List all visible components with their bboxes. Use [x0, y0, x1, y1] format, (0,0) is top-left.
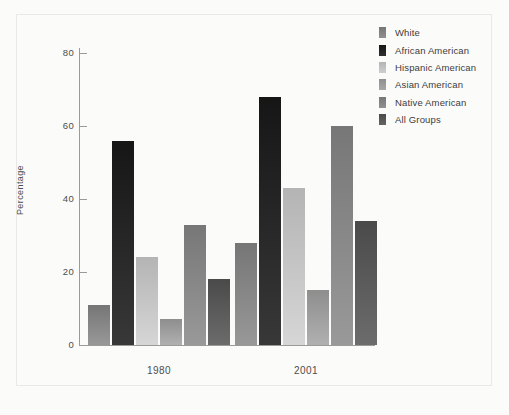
bar-white-1980 — [88, 305, 110, 345]
chart-legend: WhiteAfrican AmericanHispanic AmericanAs… — [379, 24, 489, 128]
bar-asian-american-2001 — [307, 290, 329, 345]
legend-swatch-icon — [379, 27, 386, 38]
bar-white-2001 — [235, 243, 257, 345]
legend-item-hispanic-american[interactable]: Hispanic American — [379, 59, 489, 76]
legend-label: Asian American — [395, 79, 463, 90]
legend-swatch-icon — [379, 62, 386, 73]
legend-swatch-icon — [379, 97, 386, 108]
bar-asian-american-1980 — [160, 319, 182, 345]
legend-item-all-groups[interactable]: All Groups — [379, 111, 489, 128]
legend-label: Native American — [395, 97, 466, 108]
legend-label: White — [395, 27, 420, 38]
bar-all-groups-2001 — [355, 221, 377, 345]
bar-hispanic-american-2001 — [283, 188, 305, 345]
legend-item-african-american[interactable]: African American — [379, 41, 489, 58]
bar-native-american-2001 — [331, 126, 353, 345]
bar-native-american-1980 — [184, 225, 206, 345]
legend-label: All Groups — [395, 114, 441, 125]
bar-hispanic-american-1980 — [136, 257, 158, 345]
legend-label: Hispanic American — [395, 62, 476, 73]
legend-swatch-icon — [379, 79, 386, 90]
legend-item-asian-american[interactable]: Asian American — [379, 76, 489, 93]
legend-swatch-icon — [379, 45, 386, 56]
chart-figure: Percentage 020406080 19802001 WhiteAfric… — [0, 0, 509, 415]
legend-item-native-american[interactable]: Native American — [379, 94, 489, 111]
bar-all-groups-1980 — [208, 279, 230, 345]
bar-african-american-2001 — [259, 97, 281, 345]
legend-label: African American — [395, 45, 469, 56]
x-tick-label-1980: 1980 — [124, 365, 194, 376]
bar-african-american-1980 — [112, 141, 134, 345]
legend-item-white[interactable]: White — [379, 24, 489, 41]
legend-swatch-icon — [379, 114, 386, 125]
x-tick-label-2001: 2001 — [271, 365, 341, 376]
